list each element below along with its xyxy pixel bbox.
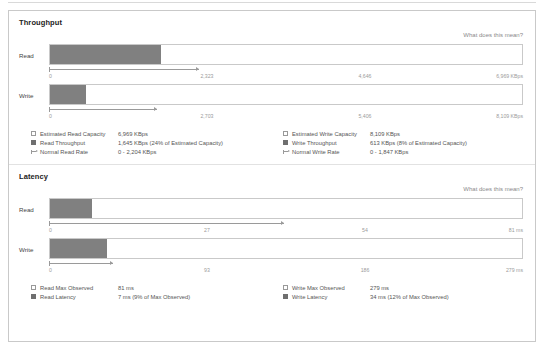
tick-1: 2,703 — [200, 113, 213, 119]
section-throughput: Throughput What does this mean? Read — [9, 11, 535, 164]
bar-row-write-latency: Write 0 93 186 279 ms — [19, 238, 523, 276]
bar-fill-write-throughput — [50, 85, 86, 104]
legend-label: Read Throughput — [40, 140, 118, 146]
hollow-square-icon — [283, 131, 288, 136]
bar-row-body-write-throughput: 0 2,703 5,406 8,109 KBps — [49, 84, 523, 122]
bar-row-label-write-latency: Write — [19, 238, 49, 253]
axis-ticks-read-latency: 0 27 54 81 ms — [49, 227, 523, 236]
bar-row-body-read-latency: 0 27 54 81 ms — [49, 198, 523, 236]
what-does-this-mean-link-latency[interactable]: What does this mean? — [463, 186, 523, 192]
normal-range-write-latency — [49, 260, 523, 267]
section-title-throughput: Throughput — [9, 11, 535, 27]
page-top-edge — [8, 2, 536, 7]
legend-value: 81 ms — [118, 285, 271, 291]
hollow-square-icon — [283, 285, 288, 290]
legend-label: Read Max Observed — [40, 285, 118, 291]
bar-fill-write-latency — [50, 239, 107, 258]
hint-row-throughput: What does this mean? — [9, 27, 535, 38]
legend-label: Normal Read Rate — [40, 149, 118, 155]
tick-2: 186 — [361, 267, 370, 273]
bar-fill-read-throughput — [50, 45, 161, 64]
bar-row-label-write-throughput: Write — [19, 84, 49, 99]
legend-item: Normal Write Rate 0 - 1,847 KBps — [283, 147, 523, 156]
legend-item: Read Max Observed 81 ms — [31, 283, 271, 292]
tick-2: 5,406 — [358, 113, 371, 119]
legend-item: Write Throughput 613 KBps (8% of Estimat… — [283, 138, 523, 147]
hint-row-latency: What does this mean? — [9, 181, 535, 192]
legend-value: 1,645 KBps (24% of Estimated Capacity) — [118, 140, 271, 146]
axis-ticks-read-throughput: 0 2,323 4,646 6,969 KBps — [49, 73, 523, 82]
legend-item: Write Latency 34 ms (12% of Max Observed… — [283, 292, 523, 301]
tick-0: 0 — [49, 267, 52, 273]
tick-2: 54 — [362, 227, 368, 233]
normal-range-read-latency — [49, 220, 523, 227]
bar-row-read-latency: Read 0 27 54 81 ms — [19, 198, 523, 236]
legend-label: Estimated Write Capacity — [292, 131, 370, 137]
tick-0: 0 — [49, 227, 52, 233]
legend-item: Read Throughput 1,645 KBps (24% of Estim… — [31, 138, 271, 147]
tick-0: 0 — [49, 113, 52, 119]
legend-throughput: Estimated Read Capacity 6,969 KBps Read … — [9, 124, 535, 164]
bar-row-read-throughput: Read 0 2,323 4,646 6,969 KBps — [19, 44, 523, 82]
axis-ticks-write-throughput: 0 2,703 5,406 8,109 KBps — [49, 113, 523, 122]
normal-range-read-throughput — [49, 66, 523, 73]
legend-item: Write Max Observed 279 ms — [283, 283, 523, 292]
bar-rows-throughput: Read 0 2,323 4,646 6,969 KBps — [9, 38, 535, 122]
bar-track-write-throughput — [49, 84, 523, 105]
bar-rows-latency: Read 0 27 54 81 ms — [9, 192, 535, 276]
legend-value: 279 ms — [370, 285, 523, 291]
tick-3: 81 ms — [509, 227, 523, 233]
legend-value: 8,109 KBps — [370, 131, 523, 137]
legend-item: Estimated Read Capacity 6,969 KBps — [31, 129, 271, 138]
bar-track-read-latency — [49, 198, 523, 219]
legend-label: Write Throughput — [292, 140, 370, 146]
bar-row-label-read-throughput: Read — [19, 44, 49, 59]
legend-label: Normal Write Rate — [292, 149, 370, 155]
tick-3: 8,109 KBps — [496, 113, 523, 119]
legend-label: Write Max Observed — [292, 285, 370, 291]
tick-1: 2,323 — [200, 73, 213, 79]
tick-1: 27 — [204, 227, 210, 233]
legend-column-write: Estimated Write Capacity 8,109 KBps Writ… — [271, 129, 523, 156]
legend-value: 6,969 KBps — [118, 131, 271, 137]
legend-label: Read Latency — [40, 294, 118, 300]
filled-square-icon — [283, 140, 288, 145]
legend-label: Write Latency — [292, 294, 370, 300]
legend-column-read: Estimated Read Capacity 6,969 KBps Read … — [19, 129, 271, 156]
what-does-this-mean-link-throughput[interactable]: What does this mean? — [463, 32, 523, 38]
legend-value: 7 ms (9% of Max Observed) — [118, 294, 271, 300]
tick-2: 4,646 — [358, 73, 371, 79]
tick-3: 279 ms — [506, 267, 523, 273]
legend-value: 34 ms (12% of Max Observed) — [370, 294, 523, 300]
filled-square-icon — [31, 294, 36, 299]
legend-column-write-latency: Write Max Observed 279 ms Write Latency … — [271, 283, 523, 301]
legend-label: Estimated Read Capacity — [40, 131, 118, 137]
hollow-square-icon — [31, 285, 36, 290]
bar-row-body-read-throughput: 0 2,323 4,646 6,969 KBps — [49, 44, 523, 82]
bar-row-write-throughput: Write 0 2,703 5,406 8,109 KBps — [19, 84, 523, 122]
legend-value: 0 - 1,847 KBps — [370, 149, 523, 155]
tick-0: 0 — [49, 73, 52, 79]
bar-track-read-throughput — [49, 44, 523, 65]
filled-square-icon — [283, 294, 288, 299]
bar-fill-read-latency — [50, 199, 92, 218]
section-latency: Latency What does this mean? Read 0 — [9, 164, 535, 309]
filled-square-icon — [31, 140, 36, 145]
bar-row-body-write-latency: 0 93 186 279 ms — [49, 238, 523, 276]
axis-ticks-write-latency: 0 93 186 279 ms — [49, 267, 523, 276]
hollow-square-icon — [31, 131, 36, 136]
legend-value: 613 KBps (8% of Estimated Capacity) — [370, 140, 523, 146]
tick-1: 93 — [204, 267, 210, 273]
range-arrow-icon — [283, 149, 290, 154]
tick-3: 6,969 KBps — [496, 73, 523, 79]
bar-track-write-latency — [49, 238, 523, 259]
legend-item: Normal Read Rate 0 - 2,204 KBps — [31, 147, 271, 156]
legend-column-read-latency: Read Max Observed 81 ms Read Latency 7 m… — [19, 283, 271, 301]
legend-item: Estimated Write Capacity 8,109 KBps — [283, 129, 523, 138]
legend-item: Read Latency 7 ms (9% of Max Observed) — [31, 292, 271, 301]
range-arrow-icon — [31, 149, 38, 154]
section-title-latency: Latency — [9, 165, 535, 181]
legend-value: 0 - 2,204 KBps — [118, 149, 271, 155]
metrics-panel: Throughput What does this mean? Read — [8, 10, 536, 342]
bar-row-label-read-latency: Read — [19, 198, 49, 213]
